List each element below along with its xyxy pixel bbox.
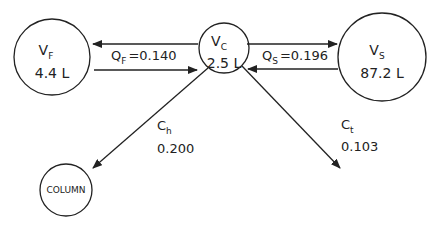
node-vf-label: VF [39, 42, 54, 61]
node-vs-value: 87.2 L [360, 65, 404, 81]
flow-ch-label: Ch [157, 118, 172, 136]
node-vc-value: 2.5 L [207, 55, 242, 71]
node-vc-label: VC [211, 33, 227, 52]
node-column: COLUMN [40, 164, 92, 216]
flow-ct-value: 0.103 [341, 139, 378, 154]
flow-qf-label: QF=0.140 [111, 48, 177, 66]
flow-ch-value: 0.200 [157, 141, 194, 156]
flow-qs-label: QS=0.196 [262, 48, 328, 66]
flow-ct-label: Ct [341, 117, 354, 135]
node-vc: VC 2.5 L [199, 23, 249, 73]
node-column-label: COLUMN [46, 185, 85, 195]
arrow-vc-to-outflow [242, 66, 340, 168]
node-vf: VF 4.4 L [14, 19, 90, 95]
compartment-diagram: VF 4.4 L VC 2.5 L VS 87.2 L COLUMN QF=0.… [0, 0, 442, 228]
node-vs-label: VS [369, 42, 385, 61]
node-vs: VS 87.2 L [338, 13, 426, 101]
node-vf-value: 4.4 L [35, 65, 70, 81]
